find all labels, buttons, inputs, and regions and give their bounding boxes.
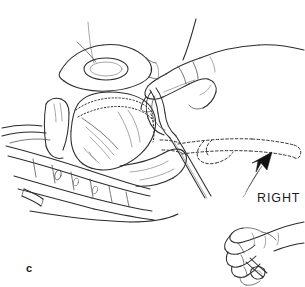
medical-illustration-figure: RIGHT <box>0 0 305 287</box>
illustration-canvas: RIGHT <box>0 0 305 287</box>
panel-label: c <box>26 262 32 274</box>
direction-label: RIGHT <box>257 191 300 205</box>
